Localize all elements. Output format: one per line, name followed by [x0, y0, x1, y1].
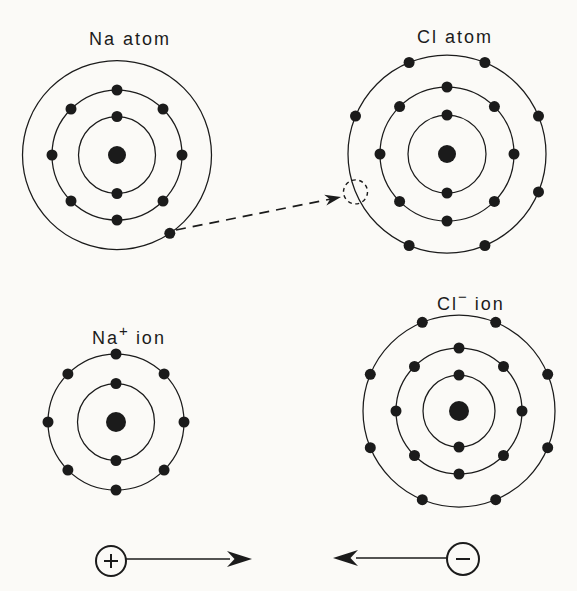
electron-dot	[442, 188, 453, 199]
electron-dot	[66, 104, 77, 115]
electron-dot	[394, 196, 405, 207]
electron-dot	[454, 469, 465, 480]
electron-dot	[112, 85, 123, 96]
electron-dot	[111, 378, 122, 389]
electron-dot	[47, 150, 58, 161]
electron-dot	[404, 240, 415, 251]
electron-dot	[112, 188, 123, 199]
cl-atom-label: Cl atom	[417, 27, 493, 47]
electron-dot	[350, 111, 361, 122]
electron-dot	[542, 369, 553, 380]
nucleus-dot	[438, 145, 456, 163]
electron-dot	[479, 240, 490, 251]
ion-charge-superscript: −	[458, 288, 469, 305]
ion-symbol: Cl	[437, 294, 458, 314]
electron-dot	[112, 111, 123, 122]
na-ion-group: Na+ion	[43, 322, 190, 496]
electron-dot	[533, 186, 544, 197]
electron-dot	[394, 101, 405, 112]
electron-dot	[158, 196, 169, 207]
electron-dot	[417, 494, 428, 505]
electron-dot	[159, 368, 170, 379]
electron-dot	[375, 149, 386, 160]
electron-dot	[454, 370, 465, 381]
electron-dot	[391, 406, 402, 417]
electron-dot	[164, 228, 175, 239]
electron-dot	[409, 361, 420, 372]
electron-dot	[43, 417, 54, 428]
charge-arrowhead-icon	[227, 551, 252, 567]
electron-dot	[62, 368, 73, 379]
electron-dot	[66, 196, 77, 207]
electron-dot	[454, 343, 465, 354]
electron-dot	[111, 485, 122, 496]
electron-dot	[489, 196, 500, 207]
electron-dot	[517, 406, 528, 417]
ion-symbol: Na	[92, 328, 119, 348]
ion-charge-superscript: +	[119, 322, 130, 339]
ionic-bonding-figure: Na atomCl atomNa+ionCl−ion	[0, 0, 577, 591]
electron-dot	[404, 57, 415, 68]
electron-dot	[62, 465, 73, 476]
electron-dot	[454, 442, 465, 453]
na-atom-group: Na atom	[23, 29, 212, 250]
electron-dot	[489, 101, 500, 112]
electron-dot	[490, 317, 501, 328]
electron-dot	[365, 369, 376, 380]
electron-dot	[159, 465, 170, 476]
electron-dot	[158, 104, 169, 115]
electron-dot	[111, 455, 122, 466]
electron-dot	[112, 215, 123, 226]
na-ion-label: Na+ion	[92, 322, 166, 348]
electron-dot	[177, 150, 188, 161]
ionic-bonding-diagram: Na atomCl atomNa+ionCl−ion	[0, 0, 577, 591]
cl-ion-group: Cl−ion	[363, 288, 555, 507]
electron-dot	[533, 111, 544, 122]
transfer-arrow-dashed-line	[176, 197, 341, 230]
positive-charge-arrow-group	[96, 546, 252, 576]
negative-charge-arrow-group	[333, 543, 479, 575]
ion-word: ion	[475, 294, 505, 314]
electron-dot	[542, 442, 553, 453]
cl-ion-label: Cl−ion	[437, 288, 505, 314]
electron-dot	[409, 450, 420, 461]
electron-dot	[111, 349, 122, 360]
na-atom-label: Na atom	[89, 29, 171, 49]
electron-dot	[509, 149, 520, 160]
electron-dot	[179, 417, 190, 428]
cl-atom-group: Cl atom	[344, 27, 547, 253]
electron-dot	[417, 317, 428, 328]
electron-dot	[442, 216, 453, 227]
electron-dot	[365, 442, 376, 453]
ion-word: ion	[136, 328, 166, 348]
charge-arrowhead-icon	[333, 550, 358, 566]
electron-dot	[479, 57, 490, 68]
nucleus-dot	[106, 412, 126, 432]
electron-dot	[498, 361, 509, 372]
electron-dot	[442, 82, 453, 93]
nucleus-dot	[108, 146, 126, 164]
electron-dot	[498, 450, 509, 461]
nucleus-dot	[449, 401, 469, 421]
electron-dot	[442, 110, 453, 121]
electron-dot	[490, 494, 501, 505]
